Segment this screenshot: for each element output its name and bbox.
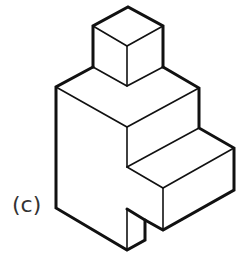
isometric-figure: (c) xyxy=(0,0,248,263)
inner-edges xyxy=(56,26,234,250)
isometric-block-drawing xyxy=(0,0,248,263)
outline xyxy=(56,7,234,250)
figure-label: (c) xyxy=(12,192,41,217)
